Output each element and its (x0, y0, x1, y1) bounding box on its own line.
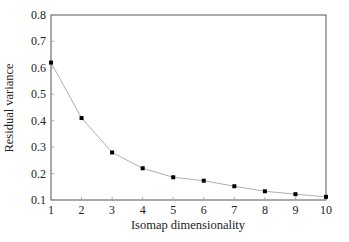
y-tick-label: 0.5 (31, 87, 46, 101)
y-tick-label: 0.2 (31, 167, 46, 181)
x-tick-label: 3 (109, 203, 115, 217)
x-tick-label: 7 (231, 203, 237, 217)
y-tick-label: 0.4 (31, 114, 46, 128)
x-tick-label: 1 (48, 203, 54, 217)
data-point-marker (49, 61, 53, 65)
data-point-marker (324, 195, 328, 199)
data-point-marker (263, 189, 267, 193)
y-tick-label: 0.3 (31, 140, 46, 154)
y-tick-labels: 0.10.20.30.40.50.60.70.8 (31, 8, 46, 207)
data-point-marker (141, 166, 145, 170)
data-markers (49, 61, 328, 199)
data-line (51, 63, 326, 197)
x-tick-label: 5 (170, 203, 176, 217)
data-point-marker (202, 179, 206, 183)
data-point-marker (293, 192, 297, 196)
y-tick-label: 0.8 (31, 8, 46, 22)
data-point-marker (110, 150, 114, 154)
x-tick-label: 9 (292, 203, 298, 217)
data-point-marker (80, 116, 84, 120)
chart-container: 12345678910 0.10.20.30.40.50.60.70.8 Iso… (0, 0, 349, 242)
y-tick-label: 0.1 (31, 193, 46, 207)
data-point-marker (232, 184, 236, 188)
x-axis-label: Isomap dimensionality (131, 218, 246, 232)
x-tick-label: 6 (201, 203, 207, 217)
x-tick-label: 4 (140, 203, 146, 217)
residual-variance-chart: 12345678910 0.10.20.30.40.50.60.70.8 Iso… (0, 0, 349, 242)
axis-ticks (51, 15, 326, 200)
y-tick-label: 0.6 (31, 61, 46, 75)
plot-area-border (51, 15, 326, 200)
y-tick-label: 0.7 (31, 34, 46, 48)
y-axis-label: Residual variance (2, 63, 16, 153)
x-tick-label: 2 (79, 203, 85, 217)
x-tick-label: 10 (320, 203, 332, 217)
data-point-marker (171, 175, 175, 179)
x-tick-label: 8 (262, 203, 268, 217)
series-line (51, 63, 326, 197)
plot-frame (51, 15, 326, 200)
x-tick-labels: 12345678910 (48, 203, 332, 217)
